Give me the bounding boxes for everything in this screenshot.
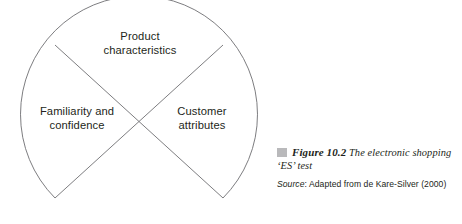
figure-caption: Figure 10.2 The electronic shopping ‘ES’…	[277, 146, 457, 191]
segment-label-product-line2: characteristics	[104, 44, 177, 56]
es-test-diagram: Product characteristics Familiarity and …	[0, 0, 270, 224]
segment-label-familiarity: Familiarity and confidence	[22, 105, 132, 132]
figure-source: Source: Adapted from de Kare-Silver (200…	[277, 179, 457, 191]
segment-label-customer-line1: Customer	[177, 105, 226, 117]
figure-source-separator: :	[305, 179, 307, 189]
segment-label-familiarity-line1: Familiarity and	[40, 105, 114, 117]
segment-label-product: Product characteristics	[86, 30, 194, 57]
figure-source-text: Adapted from de Kare-Silver (2000)	[309, 179, 446, 189]
figure-marker-icon	[277, 148, 287, 157]
segment-label-familiarity-line2: confidence	[49, 119, 104, 131]
segment-label-customer: Customer attributes	[158, 105, 246, 132]
figure-caption-title: Figure 10.2 The electronic shopping ‘ES’…	[277, 146, 457, 172]
segment-label-customer-line2: attributes	[178, 119, 225, 131]
figure-number: Figure 10.2	[292, 146, 346, 158]
figure-source-label: Source	[277, 179, 305, 189]
segment-label-product-line1: Product	[120, 30, 159, 42]
